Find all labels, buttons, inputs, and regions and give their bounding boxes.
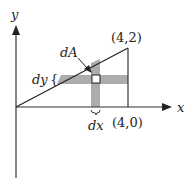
- integration-region-diagram: y x (4,2) (4,0) dA dy { dx: [0, 0, 194, 183]
- area-element-square: [92, 75, 100, 83]
- top-vertex-label: (4,2): [111, 30, 142, 45]
- dA-label: dA: [60, 45, 78, 60]
- y-axis-label: y: [10, 7, 19, 22]
- y-axis-arrow-icon: [12, 25, 20, 35]
- dy-brace-icon: {: [50, 72, 58, 87]
- x-axis-label: x: [177, 100, 185, 115]
- bottom-vertex-label: (4,0): [112, 115, 143, 130]
- dx-label: dx: [88, 118, 104, 133]
- dy-label: dy: [32, 72, 48, 87]
- dx-brace-icon: [91, 110, 100, 115]
- x-axis-arrow-icon: [162, 103, 172, 111]
